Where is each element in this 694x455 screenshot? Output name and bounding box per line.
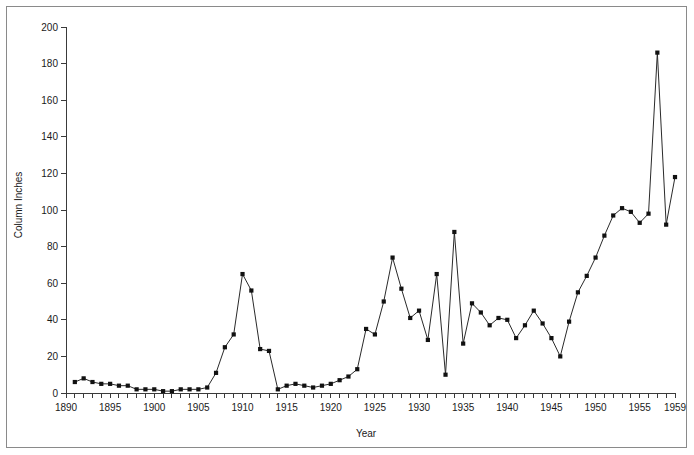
data-point-marker [249, 288, 253, 292]
x-tick-label: 1900 [143, 402, 166, 413]
data-point-marker [399, 287, 403, 291]
y-tick-label: 0 [52, 388, 58, 399]
data-point-marker [452, 230, 456, 234]
data-point-marker [73, 380, 77, 384]
data-point-marker [285, 384, 289, 388]
x-axis: 1890189519001905191019151920192519301935… [55, 393, 687, 413]
data-point-marker [470, 301, 474, 305]
y-tick-label: 60 [47, 278, 59, 289]
data-point-marker [461, 341, 465, 345]
data-point-marker [152, 387, 156, 391]
data-point-marker [664, 223, 668, 227]
data-point-marker [240, 272, 244, 276]
x-tick-label: 1935 [452, 402, 475, 413]
data-point-marker [611, 213, 615, 217]
data-point-marker [170, 389, 174, 393]
data-point-marker [558, 354, 562, 358]
y-tick-label: 180 [41, 58, 58, 69]
data-point-marker [267, 349, 271, 353]
data-point-marker [435, 272, 439, 276]
x-tick-label: 1950 [584, 402, 607, 413]
x-tick-label: 1920 [320, 402, 343, 413]
line-chart-plot: 020406080100120140160180200 189018951900… [0, 0, 694, 455]
data-point-marker [311, 385, 315, 389]
data-point-marker [593, 255, 597, 259]
data-point-marker [602, 234, 606, 238]
x-tick-label: 1940 [496, 402, 519, 413]
data-point-marker [638, 221, 642, 225]
data-point-marker [408, 316, 412, 320]
data-point-marker [655, 51, 659, 55]
data-point-marker [346, 374, 350, 378]
x-tick-label: 1955 [629, 402, 652, 413]
data-point-marker [258, 347, 262, 351]
y-tick-label: 20 [47, 351, 59, 362]
data-point-marker [179, 387, 183, 391]
data-point-marker [187, 387, 191, 391]
data-point-marker [135, 387, 139, 391]
series-polyline [75, 53, 675, 392]
data-point-marker [99, 382, 103, 386]
data-point-marker [161, 389, 165, 393]
data-point-marker [293, 382, 297, 386]
x-tick-label: 1910 [231, 402, 254, 413]
data-point-marker [205, 385, 209, 389]
data-point-marker [390, 255, 394, 259]
data-point-marker [585, 274, 589, 278]
data-point-marker [373, 332, 377, 336]
data-point-marker [355, 367, 359, 371]
data-point-marker [488, 323, 492, 327]
y-tick-label: 120 [41, 168, 58, 179]
data-point-marker [532, 309, 536, 313]
data-point-marker [214, 371, 218, 375]
x-tick-label: 1905 [187, 402, 210, 413]
data-point-marker [567, 320, 571, 324]
y-tick-label: 140 [41, 131, 58, 142]
data-point-marker [514, 336, 518, 340]
y-axis: 020406080100120140160180200 [41, 22, 66, 399]
data-point-marker [541, 321, 545, 325]
data-point-marker [620, 206, 624, 210]
x-tick-label: 1930 [408, 402, 431, 413]
data-point-marker [82, 376, 86, 380]
y-tick-label: 200 [41, 22, 58, 33]
data-point-marker [196, 387, 200, 391]
data-point-marker [426, 338, 430, 342]
data-point-marker [629, 210, 633, 214]
data-point-marker [338, 378, 342, 382]
chart-figure: 020406080100120140160180200 189018951900… [0, 0, 694, 455]
data-point-marker [443, 373, 447, 377]
data-point-marker [232, 332, 236, 336]
y-tick-label: 160 [41, 95, 58, 106]
data-point-marker [576, 290, 580, 294]
y-tick-label: 40 [47, 314, 59, 325]
data-point-marker [496, 316, 500, 320]
data-point-marker [276, 387, 280, 391]
data-point-marker [223, 345, 227, 349]
x-tick-label: 1959 [664, 402, 687, 413]
data-point-marker [117, 384, 121, 388]
data-point-marker [382, 299, 386, 303]
data-point-marker [523, 323, 527, 327]
data-point-marker [479, 310, 483, 314]
data-point-marker [673, 175, 677, 179]
data-point-marker [302, 384, 306, 388]
data-point-marker [364, 327, 368, 331]
data-point-marker [90, 380, 94, 384]
data-point-marker [320, 384, 324, 388]
x-tick-label: 1925 [364, 402, 387, 413]
data-point-marker [108, 382, 112, 386]
data-point-marker [646, 212, 650, 216]
data-point-marker [549, 336, 553, 340]
data-point-marker [126, 384, 130, 388]
y-tick-label: 80 [47, 241, 59, 252]
x-tick-label: 1895 [99, 402, 122, 413]
data-point-marker [417, 309, 421, 313]
x-tick-label: 1915 [276, 402, 299, 413]
data-point-marker [505, 318, 509, 322]
x-tick-label: 1890 [55, 402, 78, 413]
data-point-marker [143, 387, 147, 391]
y-axis-title: Column Inches [13, 172, 24, 239]
x-tick-label: 1945 [540, 402, 563, 413]
data-series [73, 51, 677, 394]
